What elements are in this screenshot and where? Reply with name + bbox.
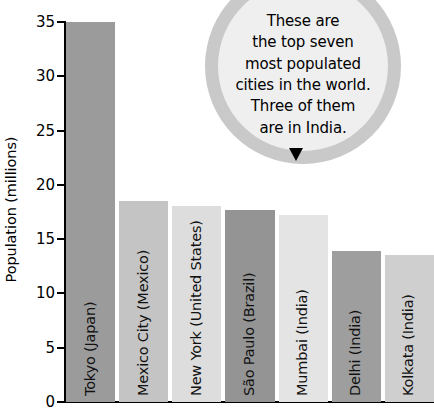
bar: Delhi (India): [332, 251, 381, 402]
y-axis-tick-mark: [57, 292, 64, 294]
y-axis-tick-label: 20: [3, 178, 55, 193]
bar-category-label: Mexico City (Mexico): [135, 250, 151, 396]
callout-text: These are the top seven most populated c…: [235, 0, 370, 139]
callout-bubble-inner: These are the top seven most populated c…: [218, 0, 388, 151]
y-axis-tick-labels: 35302520151050: [0, 0, 55, 419]
y-axis-tick-mark: [57, 238, 64, 240]
y-axis-tick-mark: [57, 75, 64, 77]
y-axis-tick-label: 35: [3, 15, 55, 30]
bar: São Paulo (Brazil): [225, 210, 274, 402]
y-axis-tick-mark: [57, 184, 64, 186]
y-axis-tick-label: 10: [3, 286, 55, 301]
bar-category-label: São Paulo (Brazil): [241, 273, 257, 396]
bar: Kolkata (India): [385, 255, 434, 402]
y-axis-tick-mark: [57, 401, 64, 403]
y-axis-tick-label: 5: [3, 341, 55, 356]
y-axis-tick-label: 15: [3, 232, 55, 247]
bar: Tokyo (Japan): [66, 22, 115, 402]
bar: Mumbai (India): [279, 215, 328, 402]
bar-chart-figure: Population (millions) 35302520151050 Tok…: [0, 0, 434, 419]
bar-category-label: Delhi (India): [347, 310, 363, 396]
y-axis-tick-mark: [57, 347, 64, 349]
bar-category-label: Tokyo (Japan): [82, 302, 98, 396]
bar-category-label: Mumbai (India): [294, 289, 310, 396]
y-axis-tick-mark: [57, 130, 64, 132]
bar: New York (United States): [172, 206, 221, 403]
bar-category-label: New York (United States): [188, 220, 204, 396]
y-axis-tick-label: 0: [3, 395, 55, 410]
y-axis-tick-label: 30: [3, 69, 55, 84]
y-axis-tick-label: 25: [3, 124, 55, 139]
y-axis-tick-mark: [57, 21, 64, 23]
callout-arrow-icon: [289, 148, 303, 161]
bar: Mexico City (Mexico): [119, 201, 168, 402]
bar-category-label: Kolkata (India): [400, 294, 416, 396]
